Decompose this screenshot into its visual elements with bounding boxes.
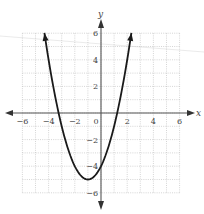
x-tick-label: 4 <box>151 117 156 126</box>
y-tick-label: −4 <box>86 162 98 171</box>
y-tick-label: 2 <box>93 82 98 91</box>
x-tick-label: −4 <box>43 117 55 126</box>
x-tick-label: 0 <box>93 117 98 126</box>
x-tick-labels: −6−4−20246 <box>17 117 183 126</box>
x-tick-label: −6 <box>17 117 29 126</box>
parabola-graph: −6−4−20246 642−2−4−6 x y <box>0 0 204 214</box>
scan-artifact <box>0 36 204 52</box>
x-axis-label: x <box>196 108 201 118</box>
x-axis-left-arrow-icon <box>5 110 13 116</box>
x-tick-label: −2 <box>69 117 81 126</box>
x-axis-right-arrow-icon <box>187 110 195 116</box>
curve-right-arrow-icon <box>127 33 133 41</box>
y-axis-up-arrow-icon <box>98 19 104 28</box>
y-tick-label: 4 <box>93 56 98 65</box>
y-tick-label: 6 <box>93 29 98 38</box>
y-axis-label: y <box>97 9 104 19</box>
y-tick-label: −2 <box>86 136 98 145</box>
y-tick-label: −6 <box>86 189 98 198</box>
y-axis-down-arrow-icon <box>98 201 104 210</box>
x-tick-label: 2 <box>125 117 130 126</box>
curve-left-arrow-icon <box>43 33 49 41</box>
x-tick-label: 6 <box>177 117 182 126</box>
